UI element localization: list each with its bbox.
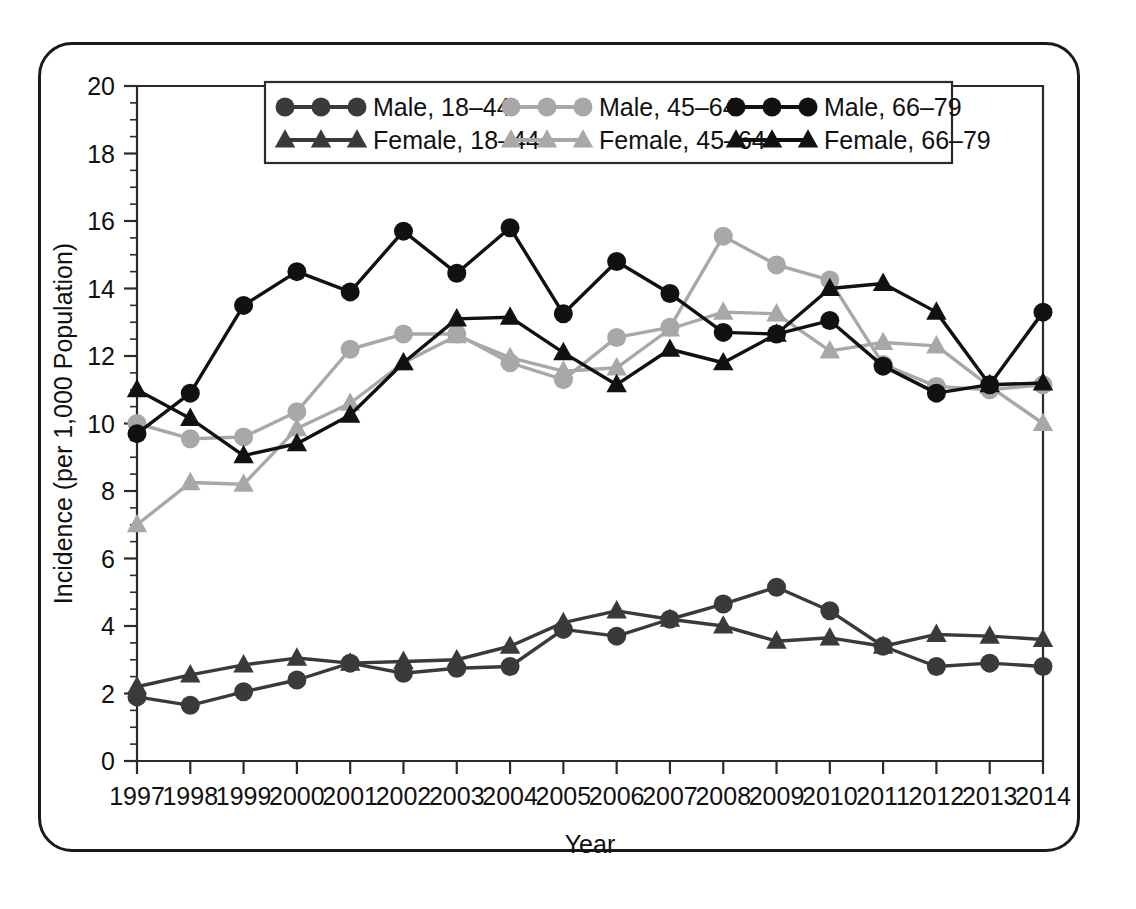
data-point (181, 696, 200, 715)
series-line (137, 236, 1043, 439)
data-point (820, 311, 839, 330)
data-point (874, 357, 893, 376)
legend-circle-icon (312, 98, 331, 117)
data-point (926, 624, 946, 642)
data-point (607, 252, 626, 271)
x-tick-label: 2011 (856, 782, 910, 810)
data-point (926, 301, 946, 319)
data-point (660, 338, 680, 356)
x-tick-label: 1997 (109, 782, 165, 810)
y-tick-label: 20 (87, 72, 115, 100)
y-tick-label: 12 (87, 342, 115, 370)
data-point (394, 325, 413, 344)
y-tick-label: 10 (87, 410, 115, 438)
legend-circle-icon (502, 98, 521, 117)
data-point (287, 262, 306, 281)
data-point (234, 682, 253, 701)
series-line (137, 611, 1043, 687)
series-male-18-44 (128, 578, 1053, 715)
chart-legend: Male, 18–44Male, 45–64Male, 66–79Female,… (265, 82, 991, 163)
legend-label: Female, 66–79 (824, 126, 991, 154)
incidence-line-chart: 02468101214161820 1997199819992000200120… (0, 0, 1136, 909)
y-axis-title: Incidence (per 1,000 Population) (49, 243, 77, 604)
legend-circle-icon (727, 98, 746, 117)
data-point (927, 657, 946, 676)
data-point (713, 301, 733, 319)
data-point (714, 595, 733, 614)
data-point (501, 218, 520, 237)
y-tick-label: 8 (101, 477, 115, 505)
data-point (128, 424, 147, 443)
data-point (341, 340, 360, 359)
data-point (606, 357, 626, 375)
data-point (873, 273, 893, 291)
data-point (714, 323, 733, 342)
legend-label: Male, 45–64 (599, 93, 737, 121)
x-tick-label: 2007 (642, 782, 698, 810)
data-point (554, 304, 573, 323)
data-point (607, 627, 626, 646)
data-point (180, 472, 200, 490)
data-point (820, 601, 839, 620)
series-line (137, 228, 1043, 434)
series-line (137, 587, 1043, 705)
x-tick-label: 2002 (376, 782, 432, 810)
x-tick-label: 1999 (216, 782, 272, 810)
data-point (660, 284, 679, 303)
y-tick-label: 2 (101, 680, 115, 708)
legend-circle-icon (276, 98, 295, 117)
data-point (1034, 303, 1053, 322)
x-axis-title: Year (565, 830, 616, 858)
x-tick-label: 2012 (909, 782, 965, 810)
x-tick-label: 2013 (962, 782, 1018, 810)
data-point (234, 296, 253, 315)
data-point (606, 600, 626, 618)
data-point (127, 379, 147, 397)
legend-circle-icon (574, 98, 593, 117)
x-tick-label: 2001 (322, 782, 378, 810)
y-tick-label: 16 (87, 207, 115, 235)
data-point (394, 222, 413, 241)
data-point (820, 627, 840, 645)
data-point (1033, 413, 1053, 431)
data-point (714, 227, 733, 246)
data-point (980, 654, 999, 673)
legend-circle-icon (799, 98, 818, 117)
x-tick-label: 2005 (536, 782, 592, 810)
data-point (181, 384, 200, 403)
x-tick-label: 2003 (429, 782, 485, 810)
y-tick-label: 4 (101, 612, 115, 640)
x-tick-label: 1998 (162, 782, 218, 810)
data-point (767, 255, 786, 274)
chart-stage: 02468101214161820 1997199819992000200120… (0, 0, 1136, 909)
series-female-18-44 (127, 600, 1053, 694)
data-point (1034, 657, 1053, 676)
legend-circle-icon (538, 98, 557, 117)
data-point (180, 408, 200, 426)
data-point (501, 657, 520, 676)
legend-label: Male, 18–44 (373, 93, 511, 121)
x-tick-label: 2009 (749, 782, 805, 810)
data-point (927, 384, 946, 403)
series-male-45-64 (128, 227, 1053, 449)
data-point (873, 332, 893, 350)
series-line (137, 312, 1043, 525)
series-female-45-64 (127, 301, 1053, 532)
x-tick-label: 2010 (802, 782, 858, 810)
data-point (287, 647, 307, 665)
y-tick-label: 18 (87, 140, 115, 168)
x-tick-label: 2008 (695, 782, 751, 810)
data-point (447, 264, 466, 283)
data-point (553, 342, 573, 360)
data-point (234, 428, 253, 447)
axes-layer: 02468101214161820 1997199819992000200120… (87, 72, 1071, 810)
y-tick-label: 14 (87, 275, 115, 303)
series-female-66-79 (127, 273, 1053, 464)
data-point (287, 671, 306, 690)
data-point (181, 429, 200, 448)
series-male-66-79 (128, 218, 1053, 443)
x-axis: 1997199819992000200120022003200420052006… (109, 761, 1071, 810)
y-tick-label: 6 (101, 545, 115, 573)
series-line (137, 283, 1043, 455)
data-point (127, 514, 147, 532)
